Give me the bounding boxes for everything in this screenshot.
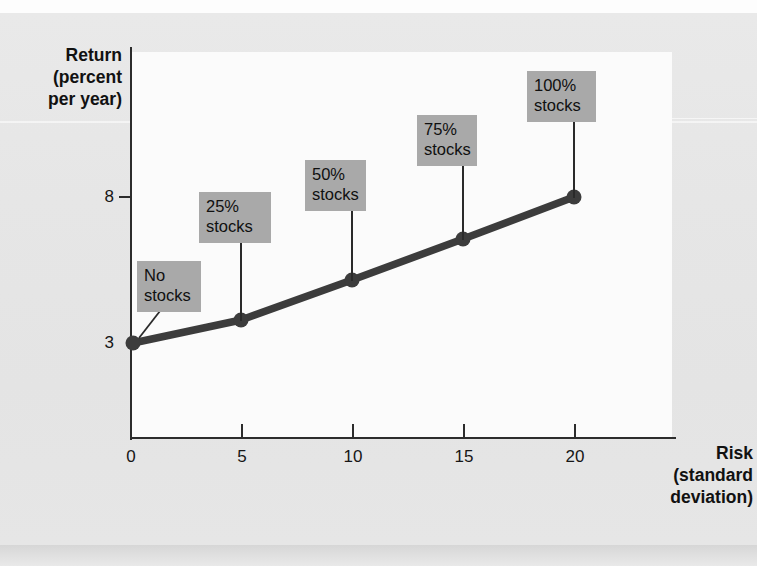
figure-page: ent in bonds. If you ultimately ity you … (0, 0, 757, 566)
leader-line-50-stocks (351, 211, 353, 281)
callout-25-stocks: 25% stocks (199, 192, 271, 243)
leader-line-75-stocks (462, 166, 464, 240)
callout-50-stocks: 50% stocks (305, 160, 366, 211)
callout-no-stocks: No stocks (137, 261, 201, 312)
leader-line-no-stocks (139, 311, 160, 338)
data-point-no-stocks (126, 336, 141, 351)
callout-100-stocks: 100% stocks (527, 71, 596, 122)
callout-75-stocks: 75% stocks (417, 115, 477, 166)
leader-line-100-stocks (573, 122, 575, 198)
leader-line-25-stocks (240, 243, 242, 321)
risk-return-series (0, 0, 757, 566)
